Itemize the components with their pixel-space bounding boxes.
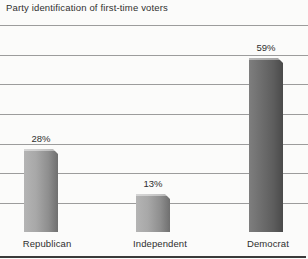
bar-value-label: 13% (143, 178, 162, 190)
bar-top-bevel (249, 58, 283, 60)
chart-title: Party identification of first-time voter… (6, 2, 168, 14)
bar-republican[interactable]: 28% (24, 149, 58, 232)
category-label-independent: Independent (133, 238, 187, 250)
bar-value-label: 28% (31, 133, 50, 145)
bar-fill (136, 194, 170, 232)
bar-fill (24, 149, 58, 232)
bar-fill (249, 58, 283, 232)
gridline (0, 55, 308, 56)
plot-area: 28% 13% 59% (0, 25, 308, 232)
category-label-democrat: Democrat (247, 238, 289, 250)
bar-top-bevel (136, 194, 170, 196)
bar-independent[interactable]: 13% (136, 194, 170, 232)
bar-top-bevel (24, 149, 58, 151)
bar-chart: Party identification of first-time voter… (0, 0, 308, 259)
bar-democrat[interactable]: 59% (249, 58, 283, 232)
x-axis-line (0, 256, 306, 258)
gridline (0, 25, 308, 26)
category-label-republican: Republican (23, 238, 72, 250)
bar-value-label: 59% (256, 42, 275, 54)
